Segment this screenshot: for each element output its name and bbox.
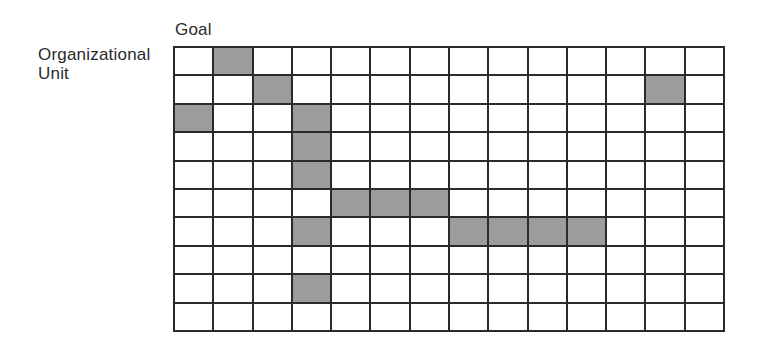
organizational-unit-axis-label: Organizational Unit: [38, 45, 150, 83]
matrix-cell-shaded: [293, 105, 332, 133]
matrix-cell: [489, 304, 528, 332]
matrix-cell: [371, 218, 410, 246]
matrix-cell: [214, 190, 253, 218]
matrix-cell: [568, 162, 607, 190]
matrix-cell: [214, 162, 253, 190]
matrix-cell: [371, 48, 410, 76]
matrix-cell: [568, 247, 607, 275]
matrix-cell: [607, 48, 646, 76]
matrix-cell: [450, 190, 489, 218]
matrix-cell: [686, 190, 725, 218]
matrix-cell: [607, 133, 646, 161]
matrix-cell: [175, 162, 214, 190]
matrix-cell: [568, 48, 607, 76]
matrix-cell: [686, 247, 725, 275]
matrix-cell: [214, 304, 253, 332]
axis-label-line-2: Unit: [38, 64, 150, 83]
matrix-cell: [568, 275, 607, 303]
matrix-cell: [411, 48, 450, 76]
matrix-cell: [568, 105, 607, 133]
matrix-cell: [254, 190, 293, 218]
matrix-cell: [686, 304, 725, 332]
matrix-cell: [646, 133, 685, 161]
matrix-cell: [686, 76, 725, 104]
matrix-cell: [489, 275, 528, 303]
matrix-cell: [646, 304, 685, 332]
matrix-cell: [529, 48, 568, 76]
matrix-cell: [175, 133, 214, 161]
matrix-cell: [529, 105, 568, 133]
matrix-cell-shaded: [646, 76, 685, 104]
matrix-cell: [450, 133, 489, 161]
matrix-cell: [489, 190, 528, 218]
matrix-cell: [332, 133, 371, 161]
matrix-cell: [293, 304, 332, 332]
matrix-cell: [332, 218, 371, 246]
matrix-cell: [371, 76, 410, 104]
matrix-cell: [332, 304, 371, 332]
matrix-cell: [646, 218, 685, 246]
matrix-cell: [214, 76, 253, 104]
matrix-cell: [411, 247, 450, 275]
matrix-cell: [254, 48, 293, 76]
matrix-cell: [450, 105, 489, 133]
matrix-cell: [411, 76, 450, 104]
matrix-cell-shaded: [568, 218, 607, 246]
matrix-cell: [489, 76, 528, 104]
matrix-cell: [254, 218, 293, 246]
matrix-cell: [450, 76, 489, 104]
matrix-cell: [254, 105, 293, 133]
matrix-cell: [332, 275, 371, 303]
matrix-cell: [568, 76, 607, 104]
matrix-cell: [332, 48, 371, 76]
matrix-cell: [293, 247, 332, 275]
matrix-cell: [646, 247, 685, 275]
matrix-cell: [214, 275, 253, 303]
matrix-cell: [489, 247, 528, 275]
matrix-cell-shaded: [411, 190, 450, 218]
matrix-cell: [607, 76, 646, 104]
axis-label-line-1: Organizational: [38, 45, 150, 64]
matrix-cell-shaded: [293, 133, 332, 161]
matrix-cell: [686, 275, 725, 303]
matrix-cell: [411, 218, 450, 246]
matrix-cell: [293, 190, 332, 218]
matrix-cell: [411, 105, 450, 133]
matrix-cell: [214, 133, 253, 161]
matrix-cell: [293, 48, 332, 76]
matrix-cell: [607, 275, 646, 303]
matrix-cell: [489, 48, 528, 76]
matrix-cell: [254, 133, 293, 161]
matrix-cell: [686, 105, 725, 133]
matrix-cell: [607, 190, 646, 218]
matrix-cell: [214, 218, 253, 246]
matrix-cell-shaded: [293, 275, 332, 303]
matrix-cell: [450, 275, 489, 303]
matrix-cell: [646, 190, 685, 218]
matrix-cell: [254, 275, 293, 303]
matrix-cell: [529, 162, 568, 190]
matrix-cell-shaded: [214, 48, 253, 76]
matrix-cell: [529, 133, 568, 161]
matrix-cell: [646, 162, 685, 190]
matrix-cell: [371, 247, 410, 275]
matrix-cell: [450, 162, 489, 190]
matrix-cell: [686, 162, 725, 190]
matrix-cell: [529, 76, 568, 104]
matrix-cell: [646, 48, 685, 76]
matrix-cell-shaded: [332, 190, 371, 218]
matrix-cell: [607, 105, 646, 133]
matrix-cell-shaded: [450, 218, 489, 246]
matrix-cell: [450, 304, 489, 332]
matrix-cell: [411, 133, 450, 161]
matrix-cell: [371, 275, 410, 303]
matrix-cell-shaded: [293, 218, 332, 246]
matrix-cell: [371, 105, 410, 133]
matrix-cell: [332, 247, 371, 275]
matrix-cell: [646, 275, 685, 303]
matrix-cell: [293, 76, 332, 104]
matrix-cell: [175, 218, 214, 246]
matrix-cell: [371, 133, 410, 161]
matrix-cell: [607, 162, 646, 190]
matrix-cell: [489, 162, 528, 190]
